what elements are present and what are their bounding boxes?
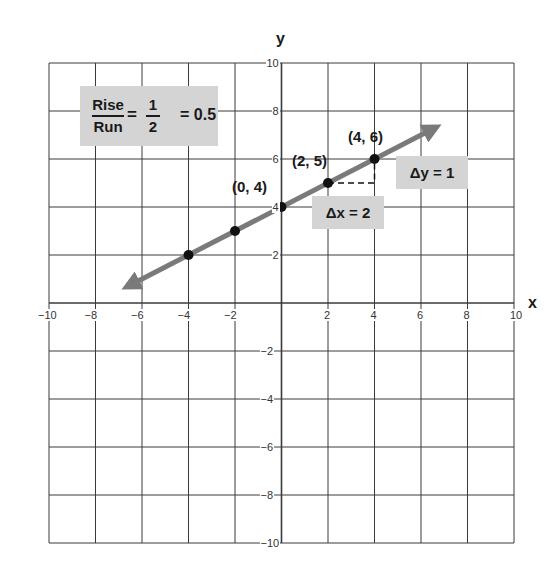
x-tick-label: 8 [463, 309, 471, 321]
point-label-0-4: (0, 4) [232, 178, 267, 195]
data-point [370, 154, 380, 164]
y-tick-label: −10 [260, 537, 281, 549]
fraction-bar [92, 115, 124, 117]
x-tick-label: −6 [130, 309, 145, 321]
x-tick-label: −10 [37, 309, 58, 321]
rise-over-run-box: Rise Run = 1 2 = 0.5 [80, 86, 218, 146]
data-point [323, 178, 333, 188]
run-label: Run [92, 118, 124, 136]
x-tick-label: 4 [370, 309, 378, 321]
x-tick-label: 6 [416, 309, 424, 321]
one-half-fraction: 1 2 [146, 96, 160, 136]
equals-sign: = [127, 105, 137, 125]
rise-run-fraction: Rise Run [92, 96, 124, 136]
x-tick-label: −2 [223, 309, 238, 321]
fraction-bar [146, 115, 160, 117]
y-tick-label: 8 [272, 105, 280, 117]
point-label-2-5: (2, 5) [292, 152, 327, 169]
y-tick-label: 2 [272, 249, 280, 261]
y-tick-label: −8 [260, 489, 275, 501]
data-point [184, 250, 194, 260]
y-tick-label: −6 [260, 441, 275, 453]
x-tick-label: −4 [177, 309, 192, 321]
y-tick-label: 6 [272, 153, 280, 165]
x-tick-label: −8 [84, 309, 99, 321]
numerator: 1 [146, 96, 160, 114]
y-tick-label: 10 [266, 57, 280, 69]
delta-y-box: Δy = 1 [396, 156, 468, 189]
y-tick-label: −4 [260, 393, 275, 405]
point-label-4-6: (4, 6) [348, 128, 383, 145]
y-tick-label: −2 [260, 345, 275, 357]
y-axis-label: y [276, 30, 285, 48]
data-point [230, 226, 240, 236]
y-tick-label: 4 [272, 201, 280, 213]
rise-label: Rise [92, 96, 124, 114]
x-axis-label: x [528, 294, 537, 312]
x-tick-label: 10 [509, 309, 523, 321]
delta-x-box: Δx = 2 [312, 196, 384, 229]
slope-result: = 0.5 [180, 106, 216, 124]
denominator: 2 [146, 118, 160, 136]
x-tick-label: 2 [323, 309, 331, 321]
